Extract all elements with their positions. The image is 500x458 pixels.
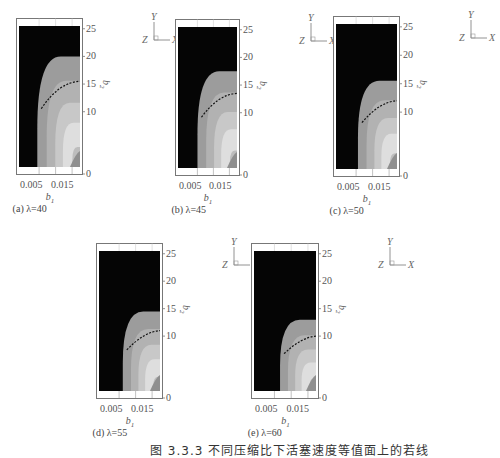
panel-caption: (e) λ=60 bbox=[248, 427, 282, 438]
triad-y-label: Y bbox=[151, 12, 157, 22]
y-tick-label: 0 bbox=[86, 169, 91, 179]
contour-plot bbox=[16, 18, 86, 178]
y-tick-label: 25 bbox=[86, 24, 96, 34]
y-tick-label: 20 bbox=[322, 276, 332, 286]
triad-z-label: Z bbox=[222, 260, 228, 270]
y-tick-label: 15 bbox=[86, 79, 96, 89]
y-tick-label: 25 bbox=[243, 25, 253, 35]
y-tick-label: 20 bbox=[86, 51, 96, 61]
triad-y-label: Y bbox=[308, 13, 314, 23]
triad-z-label: Z bbox=[459, 33, 465, 43]
triad-z-label: Z bbox=[299, 36, 305, 46]
y-tick-label: 15 bbox=[322, 304, 332, 314]
triad-x-label: X bbox=[408, 260, 414, 270]
x-tick-label: 0.005 bbox=[179, 181, 202, 191]
y-tick-label: 10 bbox=[243, 108, 253, 118]
x-tick-label: 0.005 bbox=[20, 180, 43, 190]
triad-y-label: Y bbox=[468, 10, 474, 20]
y-tick-label: 10 bbox=[403, 107, 413, 117]
y-tick-label: 20 bbox=[403, 50, 413, 60]
y-axis-label: b2 bbox=[98, 80, 112, 89]
y-axis-label: b2 bbox=[415, 80, 429, 89]
x-axis-label: b1 bbox=[281, 415, 290, 429]
y-tick-label: 25 bbox=[322, 249, 332, 259]
y-tick-label: 25 bbox=[403, 22, 413, 32]
y-tick-label: 0 bbox=[403, 171, 408, 181]
y-tick-label: 0 bbox=[322, 393, 327, 403]
y-tick-label: 10 bbox=[322, 331, 332, 341]
triad-z-label: Z bbox=[142, 35, 148, 45]
contour-plot bbox=[333, 16, 403, 180]
x-tick-label: 0.005 bbox=[255, 404, 278, 414]
y-tick-label: 15 bbox=[403, 79, 413, 89]
x-tick-label: 0.015 bbox=[51, 180, 74, 190]
panel-a: 0101520250.0050.015b1b2(a) λ=40YZX bbox=[16, 18, 172, 219]
panel-c: 0101520250.0050.015b1b2(c) λ=50YZX bbox=[333, 16, 489, 221]
y-tick-label: 10 bbox=[166, 331, 176, 341]
panel-caption: (d) λ=55 bbox=[93, 427, 128, 438]
y-axis-label: b2 bbox=[334, 305, 348, 314]
x-tick-label: 0.005 bbox=[337, 182, 360, 192]
contour-plot bbox=[251, 243, 322, 402]
y-axis-label: b2 bbox=[255, 81, 269, 90]
y-tick-label: 0 bbox=[166, 393, 171, 403]
triad-z-label: Z bbox=[378, 260, 384, 270]
panel-b: 0101520250.0050.015b1b2(b) λ=45YZX bbox=[175, 19, 329, 220]
x-tick-label: 0.015 bbox=[368, 182, 391, 192]
panel-caption: (a) λ=40 bbox=[13, 203, 47, 214]
y-tick-label: 20 bbox=[243, 52, 253, 62]
x-tick-label: 0.015 bbox=[287, 404, 310, 414]
x-tick-label: 0.015 bbox=[131, 404, 154, 414]
panel-e: 0101520250.0050.015b1b2(e) λ=60YZX bbox=[251, 243, 408, 443]
triad-x-label: X bbox=[489, 33, 495, 43]
axis-triad-icon: YZX bbox=[457, 10, 500, 48]
triad-y-label: Y bbox=[231, 237, 237, 247]
y-tick-label: 15 bbox=[243, 80, 253, 90]
y-tick-label: 0 bbox=[243, 170, 248, 180]
y-tick-label: 10 bbox=[86, 107, 96, 117]
panel-caption: (b) λ=45 bbox=[171, 204, 206, 215]
contour-plot bbox=[96, 243, 166, 402]
y-axis-label: b2 bbox=[178, 305, 192, 314]
panel-caption: (c) λ=50 bbox=[330, 205, 364, 216]
axis-triad-icon: YZX bbox=[376, 237, 420, 275]
x-tick-label: 0.005 bbox=[100, 404, 123, 414]
x-tick-label: 0.015 bbox=[209, 181, 232, 191]
y-tick-label: 20 bbox=[166, 276, 176, 286]
triad-y-label: Y bbox=[387, 237, 393, 247]
panel-d: 0101520250.0050.015b1b2(d) λ=55YZX bbox=[96, 243, 252, 443]
y-tick-label: 15 bbox=[166, 304, 176, 314]
contour-plot bbox=[175, 19, 243, 179]
figure-caption: 图 3.3.3 不同压缩比下活塞速度等值面上的若线 bbox=[150, 441, 429, 458]
y-tick-label: 25 bbox=[166, 249, 176, 259]
